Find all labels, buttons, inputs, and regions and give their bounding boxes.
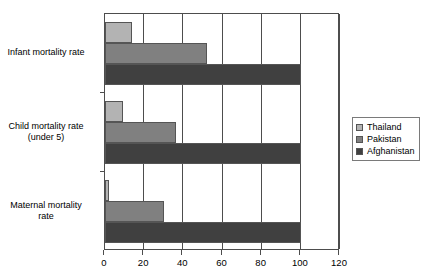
x-axis-tick-100 (299, 250, 300, 255)
y-axis-label-line: rate (0, 211, 96, 222)
x-axis-tick-label-40: 40 (162, 257, 202, 268)
category-separator-tick (100, 92, 104, 93)
y-axis-label-line: Infant mortality rate (0, 47, 96, 58)
bar-pakistan-0 (105, 43, 207, 64)
x-axis-tick-0 (103, 250, 104, 255)
legend-swatch-icon (356, 148, 363, 155)
x-axis-tick-label-120: 120 (319, 257, 359, 268)
x-axis-tick-40 (181, 250, 182, 255)
x-axis-tick-label-20: 20 (123, 257, 163, 268)
x-axis-tick-label-0: 0 (84, 257, 124, 268)
x-axis-tick-120 (338, 250, 339, 255)
bar-pakistan-1 (105, 122, 176, 143)
legend-swatch-icon (356, 136, 363, 143)
gridline-80 (261, 14, 262, 249)
bar-thailand-2 (105, 180, 109, 201)
x-axis-tick-label-80: 80 (241, 257, 281, 268)
x-axis-tick-20 (142, 250, 143, 255)
legend-swatch-icon (356, 124, 363, 131)
plot-area (104, 13, 339, 250)
y-axis-label-1: Child mortality rate(under 5) (0, 121, 96, 143)
bar-pakistan-2 (105, 201, 164, 222)
legend-label: Pakistan (367, 135, 402, 144)
legend-item-pakistan: Pakistan (356, 133, 415, 145)
category-separator-tick (100, 171, 104, 172)
bar-afghanistan-1 (105, 143, 301, 164)
y-axis-label-0: Infant mortality rate (0, 47, 96, 58)
x-axis-tick-label-60: 60 (202, 257, 242, 268)
bar-afghanistan-0 (105, 64, 301, 85)
bar-afghanistan-2 (105, 222, 301, 243)
bar-chart: Infant mortality rateChild mortality rat… (0, 0, 432, 280)
x-axis-tick-label-100: 100 (280, 257, 320, 268)
y-axis-label-line: (under 5) (0, 132, 96, 143)
gridline-100 (300, 14, 301, 249)
legend-label: Thailand (367, 123, 402, 132)
legend-item-afghanistan: Afghanistan (356, 145, 415, 157)
gridline-60 (222, 14, 223, 249)
x-axis-tick-60 (221, 250, 222, 255)
y-axis-label-2: Maternal mortalityrate (0, 200, 96, 222)
bar-thailand-1 (105, 101, 123, 122)
y-axis-label-line: Maternal mortality (0, 200, 96, 211)
bar-thailand-0 (105, 22, 132, 43)
legend-item-thailand: Thailand (356, 121, 415, 133)
legend-label: Afghanistan (367, 147, 415, 156)
x-axis-tick-80 (260, 250, 261, 255)
y-axis-label-line: Child mortality rate (0, 121, 96, 132)
chart-legend: ThailandPakistanAfghanistan (352, 117, 420, 161)
gridline-120 (339, 14, 340, 249)
